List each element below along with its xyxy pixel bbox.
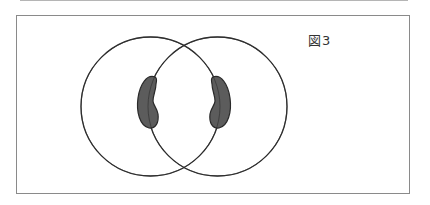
venn-diagram (0, 0, 430, 205)
figure-label: 図3 (308, 30, 331, 49)
